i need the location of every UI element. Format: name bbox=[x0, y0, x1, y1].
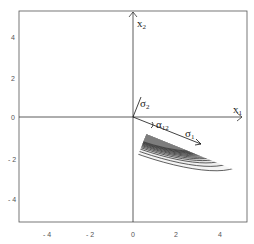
x-tick-labels: - 4 - 2 0 2 4 bbox=[43, 231, 222, 238]
svg-text:4: 4 bbox=[11, 34, 15, 41]
contour-chart: x1 x2 σ2 α12 σ1 - 4 - 2 0 2 4 4 2 0 - 2 … bbox=[0, 0, 254, 244]
y-tick-labels: 4 2 0 - 2 - 4 bbox=[8, 34, 16, 203]
svg-text:- 4: - 4 bbox=[8, 196, 16, 203]
svg-text:4: 4 bbox=[218, 231, 222, 238]
svg-text:- 4: - 4 bbox=[43, 231, 51, 238]
svg-text:2: 2 bbox=[174, 231, 178, 238]
svg-text:- 2: - 2 bbox=[8, 156, 16, 163]
svg-text:0: 0 bbox=[131, 231, 135, 238]
svg-text:- 2: - 2 bbox=[86, 231, 94, 238]
svg-text:2: 2 bbox=[11, 75, 15, 82]
svg-text:0: 0 bbox=[11, 114, 15, 121]
